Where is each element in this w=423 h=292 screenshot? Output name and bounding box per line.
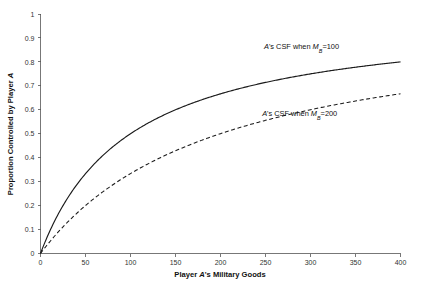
axis-title-italic-symbol: A (6, 73, 15, 79)
x-axis-title: Player A's Military Goods (174, 270, 265, 279)
axis-title-prefix: Player (174, 270, 199, 279)
x-tick-label: 0 (39, 259, 43, 266)
annotation-middle-text: 's CSF when (267, 109, 311, 118)
y-axis-ticks (38, 14, 41, 254)
axis-title-prefix: Proportion Controlled by Player (6, 78, 15, 195)
annotation-csf-200: A's CSF when MB=200 (261, 109, 337, 122)
x-axis: 050100150200250300350400 (39, 254, 407, 266)
x-tick-label: 150 (170, 259, 182, 266)
y-tick-label: 0.2 (25, 202, 35, 209)
x-axis-ticks (41, 254, 401, 257)
series-line-csf-mb-100 (41, 62, 401, 254)
chart-figure: 00.10.20.30.40.50.60.70.80.91 0501001502… (0, 0, 423, 292)
annotation-equals: =200 (321, 109, 338, 118)
y-axis-tick-labels: 00.10.20.30.40.50.60.70.80.91 (25, 11, 35, 258)
y-axis: 00.10.20.30.40.50.60.70.80.91 (25, 11, 41, 258)
y-axis-title: Proportion Controlled by Player A (6, 73, 15, 195)
x-tick-label: 300 (305, 259, 317, 266)
y-tick-label: 0.7 (25, 82, 35, 89)
y-tick-label: 0.4 (25, 154, 35, 161)
x-tick-label: 50 (82, 259, 90, 266)
y-tick-label: 1 (31, 11, 35, 18)
y-tick-label: 0.9 (25, 35, 35, 42)
y-tick-label: 0.1 (25, 226, 35, 233)
axis-title-suffix: 's Military Goods (205, 270, 266, 279)
x-tick-label: 200 (215, 259, 227, 266)
series-annotations: A's CSF when MB=100A's CSF when MB=200 (261, 42, 339, 122)
series-line-csf-mb-200 (41, 94, 401, 254)
csf-line-chart: 00.10.20.30.40.50.60.70.80.91 0501001502… (0, 0, 423, 292)
y-tick-label: 0.6 (25, 106, 35, 113)
y-tick-label: 0.5 (25, 130, 35, 137)
y-tick-label: 0.3 (25, 178, 35, 185)
x-tick-label: 100 (125, 259, 137, 266)
annotation-middle-text: 's CSF when (269, 42, 313, 51)
x-tick-label: 350 (350, 259, 362, 266)
annotation-csf-100: A's CSF when MB=100 (263, 42, 339, 55)
y-tick-label: 0 (31, 250, 35, 257)
annotation-equals: =100 (322, 42, 339, 51)
x-tick-label: 250 (260, 259, 272, 266)
data-series-group (41, 62, 401, 254)
x-tick-label: 400 (395, 259, 407, 266)
x-axis-tick-labels: 050100150200250300350400 (39, 259, 407, 266)
y-tick-label: 0.8 (25, 59, 35, 66)
